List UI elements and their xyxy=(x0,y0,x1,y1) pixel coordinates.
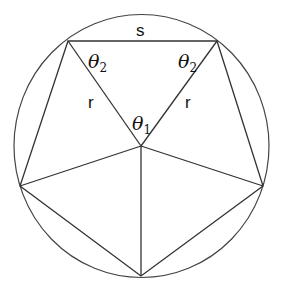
pentagon-diagram: s r r θ2 θ2 θ1 xyxy=(0,0,281,291)
radius-line xyxy=(141,146,263,186)
theta2-right-label: θ2 xyxy=(178,50,197,75)
theta1-label: θ1 xyxy=(132,112,151,137)
radius-label-left: r xyxy=(88,93,94,112)
radius-line xyxy=(68,41,141,146)
side-label: s xyxy=(136,21,145,40)
radius-line xyxy=(20,146,141,186)
theta2-left-label: θ2 xyxy=(88,50,107,75)
radius-label-right: r xyxy=(185,93,191,112)
